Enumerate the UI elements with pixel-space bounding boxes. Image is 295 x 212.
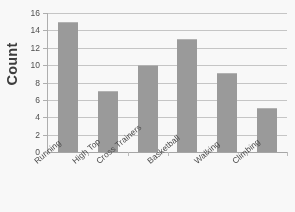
gridline xyxy=(48,117,287,118)
y-tick-label: 10 xyxy=(16,60,40,70)
bar-chart: Count 1614121086420 RunningHigh TopCross… xyxy=(0,0,295,212)
y-tick-label: 14 xyxy=(16,25,40,35)
bar xyxy=(217,73,237,152)
bar xyxy=(177,39,197,152)
plot-area xyxy=(48,13,287,152)
gridline xyxy=(48,135,287,136)
x-tick-mark xyxy=(168,152,169,156)
x-tick-mark xyxy=(88,152,89,156)
y-tick-label: 6 xyxy=(16,95,40,105)
y-tick-mark xyxy=(43,13,47,14)
gridline xyxy=(48,83,287,84)
y-tick-mark xyxy=(43,83,47,84)
y-tick-mark xyxy=(43,100,47,101)
y-tick-label: 2 xyxy=(16,130,40,140)
y-tick-label: 12 xyxy=(16,43,40,53)
y-tick-mark xyxy=(43,30,47,31)
y-tick-mark xyxy=(43,65,47,66)
bar xyxy=(58,22,78,152)
gridline xyxy=(48,13,287,14)
y-tick-mark xyxy=(43,117,47,118)
bar xyxy=(138,65,158,152)
y-axis-tick-labels: 1614121086420 xyxy=(14,0,40,212)
y-tick-mark xyxy=(43,48,47,49)
x-tick-mark xyxy=(247,152,248,156)
y-tick-label: 4 xyxy=(16,112,40,122)
y-tick-label: 8 xyxy=(16,78,40,88)
gridline xyxy=(48,65,287,66)
y-tick-mark xyxy=(43,152,47,153)
y-tick-label: 16 xyxy=(16,8,40,18)
gridline xyxy=(48,30,287,31)
y-tick-mark xyxy=(43,135,47,136)
x-tick-mark xyxy=(287,152,288,156)
x-tick-mark xyxy=(207,152,208,156)
x-tick-mark xyxy=(128,152,129,156)
gridline xyxy=(48,48,287,49)
gridline xyxy=(48,100,287,101)
